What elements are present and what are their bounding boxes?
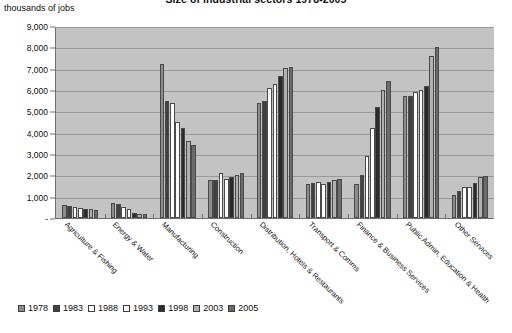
bar xyxy=(413,92,418,218)
bar xyxy=(429,56,434,218)
bar xyxy=(289,67,294,218)
bar xyxy=(316,182,321,218)
bar xyxy=(240,173,245,218)
bar xyxy=(370,128,375,218)
bar xyxy=(278,76,283,218)
bar xyxy=(121,207,126,218)
bar xyxy=(170,103,175,218)
legend-label: 1988 xyxy=(98,303,118,313)
legend-item[interactable]: 1998 xyxy=(158,303,188,313)
bar xyxy=(267,88,272,218)
bar-group xyxy=(105,27,154,218)
bar-group xyxy=(153,27,202,218)
bar-groups xyxy=(56,27,494,218)
bar xyxy=(332,180,337,218)
bar xyxy=(175,122,180,218)
bar xyxy=(186,141,191,218)
bar xyxy=(224,179,229,218)
bar xyxy=(306,184,311,218)
x-axis-label: Public Admin, Education & Health xyxy=(404,220,492,305)
bar xyxy=(424,86,429,218)
legend-label: 2003 xyxy=(203,303,223,313)
y-axis-tick-label: 1,000 xyxy=(27,193,48,203)
plot-area xyxy=(55,27,494,219)
x-axis-label: Transport & Comms xyxy=(306,220,361,273)
x-axis-label: Construction xyxy=(209,220,246,256)
bar xyxy=(94,210,99,218)
bar xyxy=(354,184,359,218)
chart-legend: 1978198319881993199820032005 xyxy=(18,303,258,313)
x-axis-label: Distribution, Hotels & Restaurants xyxy=(258,220,346,306)
bar xyxy=(360,175,365,218)
bar xyxy=(235,175,240,218)
bar xyxy=(257,103,262,218)
bar xyxy=(165,101,170,218)
legend-item[interactable]: 1988 xyxy=(88,303,118,313)
y-axis-tick-label: 9,000 xyxy=(27,22,48,32)
legend-swatch-icon xyxy=(88,305,95,312)
bar xyxy=(473,183,478,218)
bar xyxy=(132,213,137,218)
x-axis-label: Energy & Water xyxy=(111,220,156,264)
bar xyxy=(403,96,408,218)
bar xyxy=(365,156,370,218)
legend-item[interactable]: 2003 xyxy=(193,303,223,313)
bar xyxy=(219,173,224,218)
bar xyxy=(89,209,94,218)
bar xyxy=(208,180,213,218)
bar xyxy=(229,177,234,218)
legend-label: 1993 xyxy=(133,303,153,313)
bar xyxy=(386,81,391,218)
bar xyxy=(160,64,165,218)
legend-swatch-icon xyxy=(158,305,165,312)
bar xyxy=(262,101,267,218)
y-axis-tick-layer: 9,0008,0007,0006,0005,0004,0003,0002,000… xyxy=(0,27,55,219)
bar xyxy=(111,203,116,218)
x-axis-label: Other Services xyxy=(453,220,495,261)
bar xyxy=(483,176,488,218)
legend-swatch-icon xyxy=(193,305,200,312)
y-axis-tick-label: 2,000 xyxy=(27,171,48,181)
legend-item[interactable]: 1993 xyxy=(123,303,153,313)
legend-item[interactable]: 1983 xyxy=(53,303,83,313)
bar xyxy=(381,90,386,218)
bar xyxy=(408,96,413,218)
bar xyxy=(467,187,472,218)
bar xyxy=(73,207,78,218)
bar xyxy=(457,191,462,218)
bar-group xyxy=(445,27,494,218)
bar xyxy=(181,128,186,218)
bar xyxy=(83,209,88,218)
y-axis-tick-label: 4,000 xyxy=(27,129,48,139)
legend-swatch-icon xyxy=(228,305,235,312)
x-axis-label: Manufacturing xyxy=(160,220,201,260)
bar-group xyxy=(251,27,300,218)
bar-group xyxy=(299,27,348,218)
bar xyxy=(419,90,424,218)
y-axis-tick-label: 7,000 xyxy=(27,65,48,75)
bar xyxy=(137,214,142,218)
bar xyxy=(67,206,72,218)
legend-swatch-icon xyxy=(18,305,25,312)
bar xyxy=(337,179,342,218)
chart-title: Size of industrial sectors 1978-2005 xyxy=(0,0,512,5)
bar xyxy=(213,180,218,218)
legend-item[interactable]: 1978 xyxy=(18,303,48,313)
bar xyxy=(321,184,326,218)
x-axis-label: Agriculture & Fishing xyxy=(62,220,119,275)
bar xyxy=(191,145,196,218)
bar xyxy=(375,107,380,218)
y-axis-tick-label: 8,000 xyxy=(27,43,48,53)
bar xyxy=(435,47,440,218)
legend-swatch-icon xyxy=(123,305,130,312)
y-axis-label: thousands of jobs xyxy=(4,3,75,13)
legend-item[interactable]: 2005 xyxy=(228,303,258,313)
y-axis-tick-label: 3,000 xyxy=(27,150,48,160)
legend-swatch-icon xyxy=(53,305,60,312)
legend-label: 1998 xyxy=(168,303,188,313)
y-axis-tick-label: 5,000 xyxy=(27,107,48,117)
bar-group xyxy=(56,27,105,218)
bar xyxy=(127,209,132,218)
bar xyxy=(478,177,483,218)
legend-label: 2005 xyxy=(238,303,258,313)
